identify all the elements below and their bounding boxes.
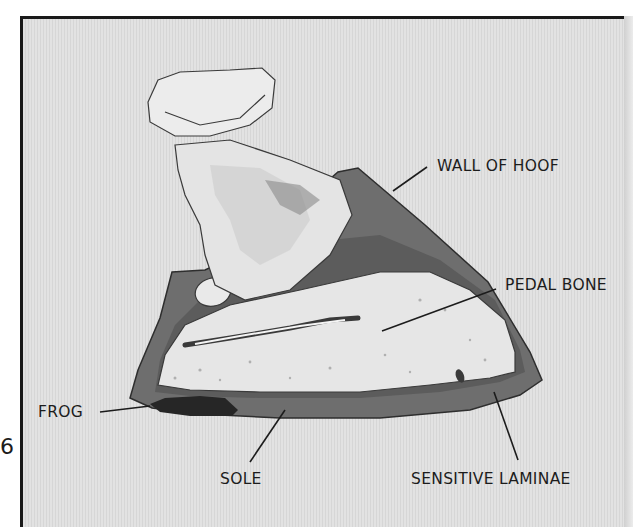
leader-wall-of-hoof (393, 167, 427, 191)
frog-shape (150, 396, 238, 416)
label-wall-of-hoof: WALL OF HOOF (437, 157, 559, 175)
label-sole: SOLE (220, 470, 262, 488)
hoof-illustration (0, 0, 633, 527)
label-frog: FROG (38, 403, 83, 421)
label-pedal-bone: PEDAL BONE (505, 276, 607, 294)
leader-frog (100, 406, 150, 412)
label-sensitive-laminae: SENSITIVE LAMINAE (411, 470, 571, 488)
leader-sensitive-laminae (494, 392, 518, 460)
page-number: 6 (0, 434, 14, 459)
long-pastern-bone (148, 68, 275, 136)
